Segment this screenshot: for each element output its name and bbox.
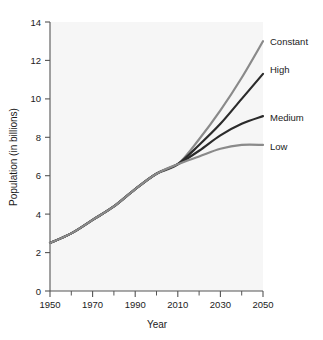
y-tick-label-2: 2 (36, 247, 41, 258)
series-label-high: High (270, 64, 290, 75)
y-tick-label-0: 0 (36, 286, 41, 297)
series-label-low: Low (270, 141, 288, 152)
y-tick-label-4: 4 (36, 209, 41, 220)
y-tick-label-8: 8 (36, 132, 41, 143)
y-tick-label-12: 12 (30, 55, 41, 66)
series-label-constant: Constant (270, 36, 308, 47)
chart-canvas: 14 12 10 8 6 4 2 0 1950 1970 1990 2010 2… (0, 0, 323, 340)
series-line-high (50, 74, 263, 243)
population-projection-chart: 14 12 10 8 6 4 2 0 1950 1970 1990 2010 2… (0, 0, 323, 340)
x-tick-label-2050: 2050 (252, 299, 273, 310)
y-tick-label-6: 6 (36, 170, 41, 181)
x-tick-label-2010: 2010 (167, 299, 188, 310)
y-tick-label-14: 14 (30, 17, 41, 28)
data-series-group (50, 41, 263, 243)
series-line-low (50, 145, 263, 243)
y-tick-label-10: 10 (30, 93, 41, 104)
x-tick-label-2030: 2030 (210, 299, 231, 310)
series-line-constant (50, 41, 263, 243)
series-line-medium (50, 116, 263, 243)
y-axis-title: Population (in billions) (8, 108, 19, 206)
y-axis-ticks (45, 22, 50, 291)
x-tick-label-1950: 1950 (39, 299, 60, 310)
x-tick-label-1990: 1990 (125, 299, 146, 310)
x-axis-ticks (50, 291, 263, 297)
x-axis-title: Year (147, 319, 168, 330)
x-tick-label-1970: 1970 (82, 299, 103, 310)
series-label-medium: Medium (270, 112, 304, 123)
